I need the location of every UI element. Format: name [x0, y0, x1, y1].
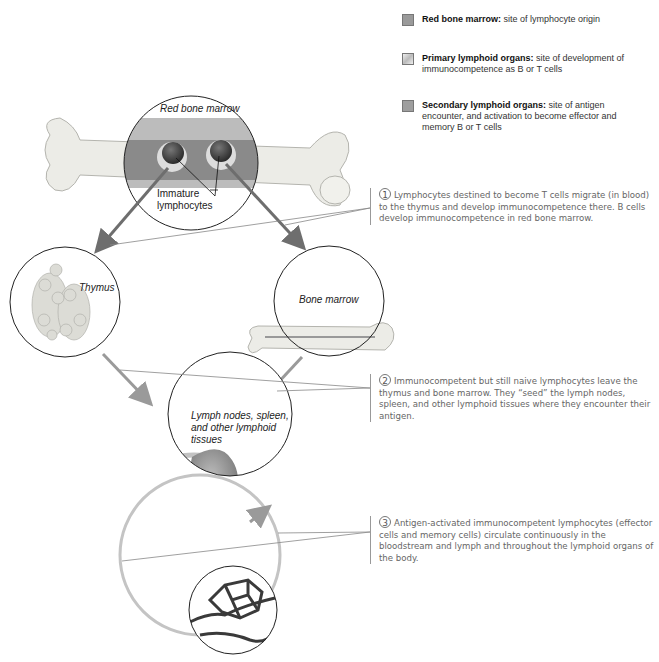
label-lymph-2: and other lymphoid — [191, 422, 276, 433]
label-red-bone-marrow: Red bone marrow — [160, 103, 239, 114]
legend-item-primary-lymphoid: Primary lymphoid organs: site of develop… — [402, 53, 637, 75]
capillary-bed-circle — [189, 566, 280, 654]
swatch-icon — [402, 100, 414, 112]
callout-step-3: 3Antigen-activated immunocompetent lymph… — [370, 516, 659, 564]
lymph-node-circle — [160, 352, 300, 516]
label-bone-marrow: Bone marrow — [299, 294, 358, 305]
callout-step-2: 2Immunocompetent but still naive lymphoc… — [370, 374, 659, 422]
label-lymphocytes: lymphocytes — [157, 200, 213, 212]
step-number-1: 1 — [379, 188, 391, 200]
legend-item-secondary-lymphoid: Secondary lymphoid organs: site of antig… — [402, 100, 637, 133]
thymus-circle — [10, 247, 120, 357]
label-lymph-1: Lymph nodes, spleen, — [191, 410, 289, 421]
label-lymph-3: tissues — [191, 434, 222, 445]
arrow-thymus-to-lymph — [103, 354, 147, 400]
label-immature: Immature — [157, 188, 199, 200]
step-number-2: 2 — [379, 374, 391, 386]
step-number-3: 3 — [379, 516, 391, 528]
label-thymus: Thymus — [79, 282, 115, 293]
legend-item-red-bone-marrow: Red bone marrow: site of lymphocyte orig… — [402, 14, 637, 25]
swatch-icon — [402, 14, 414, 26]
callout-step-1: 1Lymphocytes destined to become T cells … — [370, 188, 659, 225]
swatch-icon — [402, 53, 414, 65]
